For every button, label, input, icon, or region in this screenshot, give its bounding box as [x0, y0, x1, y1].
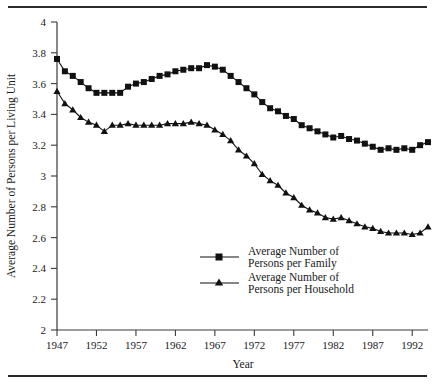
data-point-square — [338, 133, 344, 139]
x-tick-label: 1957 — [125, 339, 148, 351]
x-tick-label: 1987 — [362, 339, 385, 351]
data-point-square — [133, 81, 139, 87]
data-point-triangle — [227, 137, 234, 143]
data-point-square — [409, 147, 415, 153]
series-persons-per-family — [54, 56, 431, 153]
data-point-triangle — [290, 194, 297, 200]
data-point-square — [188, 65, 194, 71]
legend-item-household: Average Number of Persons per Household — [200, 271, 354, 296]
data-point-square — [220, 67, 226, 73]
legend-marker-triangle-icon — [215, 279, 223, 286]
data-point-square — [251, 91, 257, 97]
x-tick-label: 1977 — [283, 339, 306, 351]
data-point-square — [62, 68, 68, 74]
data-point-triangle — [188, 119, 195, 125]
x-tick-label: 1947 — [46, 339, 69, 351]
figure: 22.22.42.62.833.23.43.63.84 194719521957… — [0, 0, 435, 387]
data-point-square — [70, 73, 76, 79]
data-point-square — [322, 131, 328, 137]
data-point-triangle — [85, 119, 92, 125]
chart-plot-area: 22.22.42.62.833.23.43.63.84 194719521957… — [0, 0, 435, 387]
data-point-square — [109, 90, 115, 96]
data-point-square — [157, 73, 163, 79]
data-point-square — [362, 141, 368, 147]
y-tick-label: 3.6 — [32, 78, 46, 90]
data-point-square — [236, 79, 242, 85]
legend-label-family-line2: Persons per Family — [248, 257, 337, 270]
data-point-square — [299, 122, 305, 128]
data-point-square — [204, 62, 210, 68]
y-tick-label: 4 — [41, 16, 47, 28]
data-point-square — [86, 85, 92, 91]
data-point-square — [425, 139, 431, 145]
data-point-square — [386, 145, 392, 151]
y-axis-title: Average Number of Persons per Living Uni… — [5, 73, 18, 278]
data-point-triangle — [424, 223, 431, 229]
x-tick-label: 1952 — [85, 339, 107, 351]
data-point-square — [283, 113, 289, 119]
data-point-square — [417, 142, 423, 148]
data-point-square — [101, 90, 107, 96]
data-point-square — [78, 79, 84, 85]
data-point-square — [393, 147, 399, 153]
data-point-triangle — [61, 100, 68, 106]
data-point-triangle — [274, 182, 281, 188]
data-point-square — [149, 76, 155, 82]
data-point-square — [117, 90, 123, 96]
y-tick-label: 2.8 — [32, 201, 46, 213]
x-tick-label: 1967 — [204, 339, 227, 351]
legend-item-family: Average Number of Persons per Family — [200, 245, 339, 270]
data-point-square — [291, 116, 297, 122]
y-tick-label: 3 — [41, 170, 47, 182]
x-tick-label: 1962 — [164, 339, 186, 351]
data-point-triangle — [267, 177, 274, 183]
x-tick-label: 1982 — [322, 339, 344, 351]
data-point-triangle — [211, 126, 218, 132]
data-point-square — [354, 138, 360, 144]
data-point-square — [259, 99, 265, 105]
chart-legend: Average Number of Persons per Family Ave… — [200, 245, 354, 296]
legend-marker-square-icon — [216, 254, 223, 261]
data-point-square — [330, 135, 336, 141]
data-point-square — [401, 145, 407, 151]
data-point-square — [314, 128, 320, 134]
data-point-triangle — [417, 229, 424, 235]
data-point-square — [243, 85, 249, 91]
x-axis-title: Year — [232, 358, 253, 370]
y-tick-label: 2 — [41, 324, 47, 336]
y-tick-marks — [51, 22, 57, 330]
data-point-square — [228, 73, 234, 79]
series-line-triangle — [57, 91, 428, 234]
data-point-square — [378, 147, 384, 153]
data-point-square — [125, 84, 131, 90]
data-point-square — [141, 79, 147, 85]
line-chart-svg: 22.22.42.62.833.23.43.63.84 194719521957… — [0, 0, 435, 387]
data-point-square — [93, 90, 99, 96]
data-point-square — [267, 105, 273, 111]
data-point-triangle — [322, 214, 329, 220]
x-tick-labels: 1947195219571962196719721977198219871992 — [46, 339, 423, 351]
data-point-triangle — [243, 152, 250, 158]
legend-label-household-line2: Persons per Household — [248, 283, 354, 296]
data-point-square — [370, 144, 376, 150]
data-point-triangle — [101, 128, 108, 134]
data-point-square — [275, 108, 281, 114]
y-tick-label: 3.2 — [32, 139, 46, 151]
series-persons-per-household — [53, 88, 431, 237]
data-point-square — [54, 56, 60, 62]
data-point-square — [307, 125, 313, 131]
data-point-square — [212, 64, 218, 70]
y-tick-labels: 22.22.42.62.833.23.43.63.84 — [32, 16, 46, 336]
data-point-triangle — [53, 88, 60, 94]
data-point-triangle — [69, 106, 76, 112]
data-point-triangle — [124, 120, 131, 126]
data-point-square — [180, 67, 186, 73]
series-line-square — [57, 59, 428, 150]
data-point-square — [172, 68, 178, 74]
data-point-square — [196, 65, 202, 71]
y-tick-label: 2.4 — [32, 262, 46, 274]
data-point-triangle — [338, 214, 345, 220]
x-tick-label: 1992 — [401, 339, 423, 351]
x-tick-label: 1972 — [243, 339, 265, 351]
y-tick-label: 3.8 — [32, 47, 46, 59]
